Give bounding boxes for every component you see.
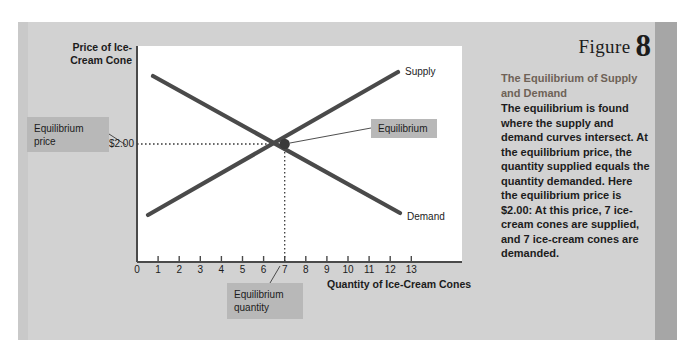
x-axis-tick-label-6: 6 [256, 264, 272, 275]
callout-equilibrium-price: Equilibrium price [27, 117, 109, 152]
figure-number: 8 [636, 28, 652, 63]
x-axis-tick-label-0: 0 [129, 264, 145, 275]
demand-curve-label: Demand [407, 211, 445, 222]
figure-label-word: Figure [578, 36, 630, 57]
callout-equilibrium-quantity: Equilibrium quantity [227, 283, 303, 319]
figure-heading: Figure8 [501, 30, 651, 61]
x-axis-tick-label-10: 10 [340, 264, 356, 275]
figure-title: The Equilibrium of Supply and Demand [501, 71, 651, 100]
x-axis-tick-label-9: 9 [319, 264, 335, 275]
x-axis-tick-label-3: 3 [192, 264, 208, 275]
x-axis-tick-label-8: 8 [298, 264, 314, 275]
x-axis-tick-label-12: 12 [382, 264, 398, 275]
x-axis-tick-label-4: 4 [213, 264, 229, 275]
callout-equilibrium-point: Equilibrium [371, 119, 437, 138]
equilibrium-point-leader-line [290, 128, 371, 143]
supply-curve-label: Supply [405, 66, 436, 77]
y-axis-title: Price of Ice-Cream Cone [40, 41, 132, 66]
x-axis-tick-label-1: 1 [150, 264, 166, 275]
figure-caption: The equilibrium is found where the suppl… [501, 101, 651, 261]
x-axis-tick-label-2: 2 [171, 264, 187, 275]
x-axis-tick-label-11: 11 [361, 264, 377, 275]
x-axis-tick-label-7: 7 [277, 264, 293, 275]
equilibrium-point-marker [280, 139, 290, 149]
x-axis-title: Quantity of Ice-Cream Cones [327, 278, 471, 290]
x-axis-tick-label-13: 13 [403, 264, 419, 275]
figure-text-column: Figure8 The Equilibrium of Supply and De… [501, 30, 651, 261]
x-axis-tick-label-5: 5 [235, 264, 251, 275]
